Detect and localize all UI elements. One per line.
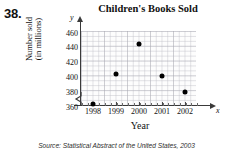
data-point bbox=[183, 89, 188, 94]
x-minor-tick-mark bbox=[174, 103, 175, 106]
data-point bbox=[114, 72, 119, 77]
source-note: Source: Statistical Abstract of the Unit… bbox=[0, 142, 233, 149]
x-minor-tick-mark bbox=[128, 103, 129, 106]
x-minor-tick-mark bbox=[186, 103, 187, 106]
x-minor-tick-mark bbox=[180, 103, 181, 106]
x-tick-label: 2000 bbox=[131, 108, 147, 116]
x-tick-label: 1998 bbox=[85, 108, 101, 116]
x-minor-tick-mark bbox=[151, 103, 152, 106]
x-minor-tick-mark bbox=[157, 103, 158, 106]
x-minor-tick-mark bbox=[105, 103, 106, 106]
x-minor-tick-mark bbox=[197, 103, 198, 106]
data-point bbox=[137, 41, 142, 46]
x-tick-label: 2001 bbox=[154, 108, 170, 116]
x-minor-tick-mark bbox=[117, 103, 118, 106]
x-minor-tick-mark bbox=[168, 103, 169, 106]
data-point bbox=[91, 101, 96, 106]
x-minor-tick-mark bbox=[134, 103, 135, 106]
x-minor-tick-mark bbox=[82, 103, 83, 106]
x-tick-label: 2002 bbox=[177, 108, 193, 116]
x-tick-labels: 19981999200020012002 bbox=[0, 0, 233, 156]
x-minor-tick-mark bbox=[145, 103, 146, 106]
exercise-figure: 38. Children's Books Sold Number sold (i… bbox=[0, 0, 233, 156]
data-point bbox=[160, 73, 165, 78]
x-minor-tick-mark bbox=[191, 103, 192, 106]
x-tick-label: 1999 bbox=[108, 108, 124, 116]
x-minor-tick-mark bbox=[163, 103, 164, 106]
x-minor-tick-mark bbox=[99, 103, 100, 106]
x-minor-tick-mark bbox=[140, 103, 141, 106]
x-minor-tick-mark bbox=[111, 103, 112, 106]
x-minor-tick-mark bbox=[88, 103, 89, 106]
x-minor-tick-mark bbox=[122, 103, 123, 106]
x-axis-label: Year bbox=[100, 120, 180, 131]
